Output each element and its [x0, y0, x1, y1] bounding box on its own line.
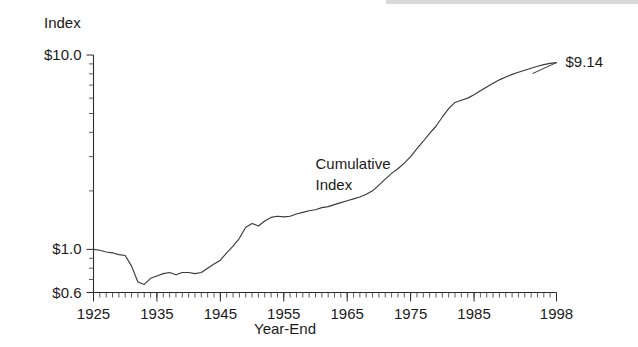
end-value-label: $9.14: [566, 53, 604, 70]
x-tick-label: 1945: [204, 305, 237, 322]
x-tick-label: 1998: [540, 305, 573, 322]
chart-background: [0, 0, 638, 347]
x-tick-label: 1965: [331, 305, 364, 322]
y-tick-label: $10.0: [44, 46, 82, 63]
x-tick-label: 1925: [77, 305, 110, 322]
scan-edge-artifact: [386, 0, 638, 4]
x-tick-label: 1955: [267, 305, 300, 322]
annotation-line-1: Cumulative: [316, 155, 391, 172]
y-tick-label: $1.0: [52, 240, 81, 257]
y-axis-title: Index: [44, 14, 81, 31]
x-tick-label: 1975: [394, 305, 427, 322]
annotation-line-2: Index: [316, 176, 353, 193]
chart-container: Index $10.0$1.0$0.6 19251935194519551965…: [0, 0, 638, 347]
y-tick-label: $0.6: [52, 284, 81, 301]
cumulative-index-line-chart: Index $10.0$1.0$0.6 19251935194519551965…: [0, 0, 638, 347]
x-tick-label: 1985: [457, 305, 490, 322]
x-tick-label: 1935: [140, 305, 173, 322]
x-axis-title: Year-End: [254, 320, 316, 337]
